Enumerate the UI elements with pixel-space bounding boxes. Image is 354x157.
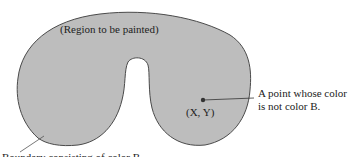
region-label: (Region to be painted) [60,23,159,36]
flood-fill-diagram [0,0,354,157]
point-description: A point whose color is not color B. [258,87,347,113]
boundary-label: Boundary consisting of color B [2,151,140,157]
boundary-leader-line [20,136,44,152]
point-coordinate-label: (X, Y) [186,106,214,119]
point-description-line-2: is not color B. [258,100,347,113]
point-description-line-1: A point whose color [258,87,347,100]
